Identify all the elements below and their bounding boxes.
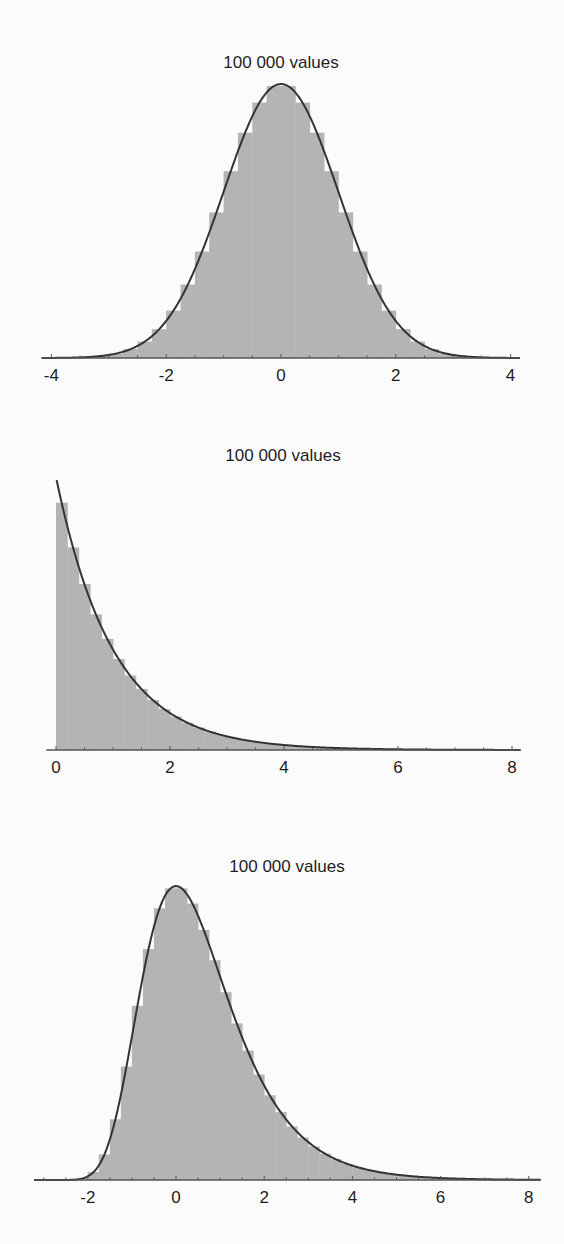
chart-normal: 100 000 values -4-2024 [42,53,520,385]
histogram-bar [102,639,114,750]
x-tick-label: 2 [165,758,174,777]
chart-gumbel: 100 000 values -202468 [34,857,541,1207]
x-tick-label: 2 [259,1188,268,1207]
x-tick-label: 0 [51,758,60,777]
histogram-bar [193,728,205,750]
x-tick-label: 6 [393,758,402,777]
histogram-bar [198,930,209,1180]
histogram-bar [165,888,176,1180]
histogram-bar [275,1112,286,1180]
chart-title: 100 000 values [229,857,344,876]
x-axis: -202468 [34,1176,541,1207]
histogram-bar [136,689,148,750]
histogram-bar [286,1126,297,1180]
histogram-bar [220,992,231,1180]
histogram-bar [154,908,165,1180]
x-tick-label: 2 [391,366,400,385]
histogram-bar [353,252,368,358]
chart-exponential: 100 000 values 02468 [46,446,520,777]
histogram-bar [264,1095,275,1180]
histogram-bar [143,949,154,1180]
histogram-bar [204,732,216,750]
histogram-bar [252,103,267,358]
histogram-bar [147,700,159,750]
x-tick-label: -2 [80,1188,95,1207]
x-tick-label: -4 [44,366,59,385]
histogram-bar [324,171,339,358]
histogram-bar [231,1023,242,1180]
histogram-bar [253,1075,264,1180]
histogram-bar [216,735,228,750]
chart-title: 100 000 values [223,53,338,72]
histogram-bar [330,1159,341,1180]
x-tick-label: -2 [159,366,174,385]
histogram-bar [242,1051,253,1180]
histogram-bar [297,1138,308,1180]
histogram-bar [99,1154,110,1180]
x-tick-label: 4 [506,366,515,385]
histogram-bar [176,888,187,1180]
histogram-bars [66,86,497,358]
x-tick-label: 0 [171,1188,180,1207]
histogram-bar [308,1146,319,1180]
histogram-bar [79,584,91,750]
histogram-bar [181,723,193,750]
x-tick-label: 4 [279,758,288,777]
histogram-bar [319,1154,330,1180]
histogram-bar [310,133,325,358]
histogram-bars [56,503,490,750]
histogram-bar [209,960,220,1180]
x-tick-label: 8 [524,1188,533,1207]
x-tick-label: 8 [507,758,516,777]
histogram-bar [238,133,253,358]
histogram-bar [295,103,310,358]
histogram-bar [209,212,224,358]
histogram-bars [77,888,518,1180]
x-tick-label: 6 [436,1188,445,1207]
histogram-bar [187,904,198,1180]
histogram-bar [267,86,282,358]
histogram-bar [90,614,102,750]
histogram-bar [224,171,239,358]
chart-title: 100 000 values [225,446,340,465]
histogram-bar [159,709,171,750]
histogram-bar [67,547,79,750]
histogram-bar [281,86,296,358]
histogram-bar [170,716,182,750]
histogram-bar [113,659,125,750]
histogram-bar [338,212,353,358]
histogram-bar [124,675,136,750]
x-tick-label: 4 [348,1188,357,1207]
x-axis: -4-2024 [42,354,520,385]
figure-canvas: 100 000 values -4-2024 100 000 values 02… [0,0,564,1244]
x-tick-label: 0 [276,366,285,385]
histogram-bar [195,252,210,358]
histogram-bar [341,1164,352,1180]
histogram-bar [56,503,68,750]
histogram-bar [110,1119,121,1180]
